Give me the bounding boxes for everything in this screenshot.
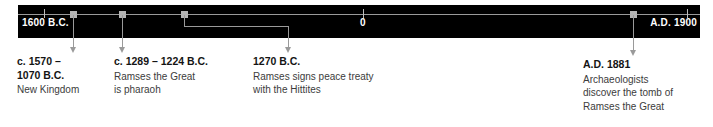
event-caption-4: A.D. 1881 Archaeologists discover the to… [583, 58, 708, 113]
axis-label-zero: 0 [343, 17, 383, 29]
event-date-2: c. 1289 – 1224 B.C. [114, 55, 244, 69]
event-description-3: Ramses signs peace treaty with the Hitti… [253, 70, 443, 97]
leader-line-event-3-descend [288, 26, 289, 49]
leader-line-event-1 [73, 15, 74, 49]
event-caption-3: 1270 B.C. Ramses signs peace treaty with… [253, 55, 443, 97]
leader-arrow-event-4 [630, 50, 636, 56]
leader-line-event-3-run [184, 26, 289, 27]
timeline-figure: 1600 B.C. 0 A.D. 1900 c. 1570 – 1070 B.C… [0, 0, 713, 127]
event-description-4: Archaeologists discover the tomb of Rams… [583, 73, 708, 114]
event-description-2: Ramses the Great is pharaoh [114, 70, 244, 97]
event-description-1: New Kingdom [17, 83, 112, 97]
event-caption-1: c. 1570 – 1070 B.C. New Kingdom [17, 55, 112, 97]
leader-line-event-4 [633, 15, 634, 52]
leader-arrow-event-2 [119, 47, 125, 53]
axis-label-start: 1600 B.C. [22, 17, 69, 29]
leader-arrow-event-3 [285, 47, 291, 53]
axis-label-end: A.D. 1900 [650, 17, 697, 29]
leader-line-event-2 [122, 15, 123, 49]
leader-arrow-event-1 [70, 47, 76, 53]
event-caption-2: c. 1289 – 1224 B.C. Ramses the Great is … [114, 55, 244, 97]
event-date-1: c. 1570 – 1070 B.C. [17, 55, 112, 82]
event-date-3: 1270 B.C. [253, 55, 443, 69]
event-date-4: A.D. 1881 [583, 58, 708, 72]
